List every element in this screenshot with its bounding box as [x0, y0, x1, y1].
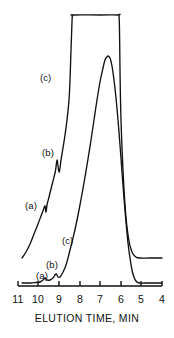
x-axis-tick-label: 5 [138, 294, 144, 305]
x-axis-tick-label: 8 [77, 294, 83, 305]
trace-lower-curve [22, 56, 162, 283]
curve-label-b-upper: (b) [42, 148, 54, 158]
x-axis-title: ELUTION TIME, MIN [0, 313, 174, 324]
curve-label-a-lower: (a) [36, 271, 48, 281]
x-axis-tick-label: 9 [56, 294, 62, 305]
plot-area [0, 0, 174, 338]
curve-label-b-lower: (b) [46, 260, 58, 270]
curve-label-a-upper: (a) [25, 201, 37, 211]
curve-label-c-lower: (c) [62, 236, 73, 246]
curve-label-c-upper: (c) [40, 73, 51, 83]
x-axis-tick-label: 10 [32, 294, 44, 305]
x-axis-tick-label: 4 [159, 294, 165, 305]
x-axis-tick-label: 7 [97, 294, 103, 305]
x-axis-tick-label: 11 [12, 294, 23, 305]
x-axis-tick-label: 6 [118, 294, 124, 305]
chromatogram-figure: 1110987654 (c)(b)(a)(c)(b)(a) ELUTION TI… [0, 0, 174, 338]
